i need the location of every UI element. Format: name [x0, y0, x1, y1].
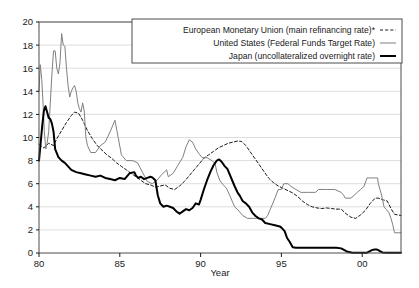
legend: European Monetary Union (main refinancin…	[132, 19, 402, 63]
y-tick-label: 10	[22, 132, 33, 143]
y-tick-label: 12	[22, 109, 33, 120]
chart-figure: 02468101214161820 8085909500 Year Europe…	[0, 0, 419, 288]
y-tick-label: 16	[22, 63, 33, 74]
x-tick-label: 85	[115, 258, 126, 269]
legend-label: United States (Federal Funds Target Rate…	[213, 38, 375, 48]
y-axis-ticks: 02468101214161820	[22, 16, 39, 258]
x-tick-label: 80	[34, 258, 45, 269]
x-tick-label: 90	[195, 258, 206, 269]
x-axis-ticks: 8085909500	[34, 253, 368, 269]
y-tick-label: 0	[28, 247, 33, 258]
x-tick-label: 95	[276, 258, 287, 269]
y-tick-label: 4	[28, 201, 33, 212]
y-tick-label: 18	[22, 40, 33, 51]
interest-rate-line-chart: 02468101214161820 8085909500 Year Europe…	[0, 0, 419, 288]
x-axis-title: Year	[210, 267, 229, 278]
x-tick-label: 00	[357, 258, 368, 269]
y-tick-label: 14	[22, 86, 33, 97]
y-tick-label: 8	[28, 155, 33, 166]
legend-label: European Monetary Union (main refinancin…	[183, 25, 376, 35]
legend-label: Japan (uncollateralized overnight rate)	[229, 51, 375, 61]
y-tick-label: 20	[22, 16, 33, 27]
y-tick-label: 6	[28, 178, 33, 189]
y-tick-label: 2	[28, 224, 33, 235]
